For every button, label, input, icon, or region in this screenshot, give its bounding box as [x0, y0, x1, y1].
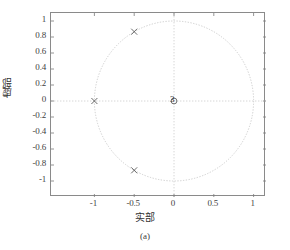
plot-canvas: [51, 13, 266, 197]
pole-marker: [131, 167, 137, 173]
pole-zero-figure: 1 0.8 0.6 0.4 0.2 0 -0.2 -0.4 -0.6 -0.8 …: [0, 0, 290, 250]
ytick-label: -0.8: [33, 159, 46, 168]
xtick-label: -0.5: [126, 199, 139, 208]
ytick-label: 0.8: [35, 31, 46, 40]
xtick-label: 1: [250, 199, 254, 208]
ytick-label: 0.6: [35, 47, 46, 56]
y-tick-marks-right: [263, 21, 266, 181]
ytick-label: -0.4: [33, 127, 46, 136]
zero-multiplicity-label: 3: [170, 95, 175, 104]
plot-area: [50, 12, 265, 196]
ytick-label: 0.2: [35, 79, 46, 88]
y-tick-marks: [51, 21, 54, 181]
ytick-label: 1: [42, 15, 46, 24]
ytick-label: -0.2: [33, 111, 46, 120]
xtick-label: -1: [90, 199, 97, 208]
xtick-label: 0: [171, 199, 175, 208]
figure-caption: (a): [0, 231, 290, 241]
ytick-label: -1: [39, 175, 46, 184]
xtick-label: 0.5: [207, 199, 218, 208]
x-axis-label: 实部: [0, 212, 290, 223]
ytick-label: 0.4: [35, 63, 46, 72]
ytick-label: -0.6: [33, 143, 46, 152]
pole-marker: [131, 29, 137, 35]
y-axis-label: 虚部: [2, 78, 16, 98]
ytick-label: 0: [42, 95, 46, 104]
